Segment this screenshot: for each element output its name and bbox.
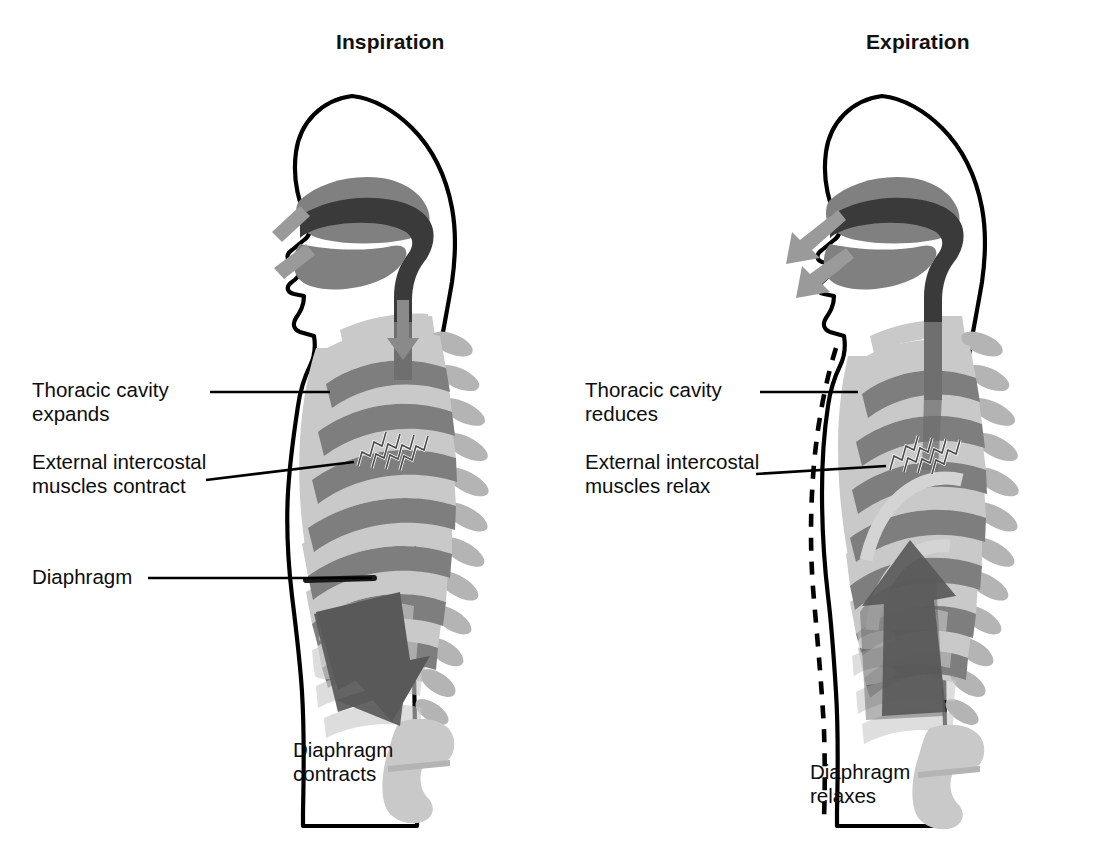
expiration-figure-illustration	[0, 0, 1098, 857]
trachea-expiration	[924, 322, 942, 400]
label-thoracic-cavity-expiration: Thoracic cavity reduces	[585, 378, 722, 426]
diaphragm-dome-shade	[860, 579, 944, 720]
label-external-intercostal-expiration: External intercostal muscles relax	[585, 450, 759, 498]
caption-diaphragm-relaxes: Diaphragm relaxes	[810, 760, 910, 808]
breathing-mechanics-figure: Inspiration Expiration	[0, 0, 1098, 857]
